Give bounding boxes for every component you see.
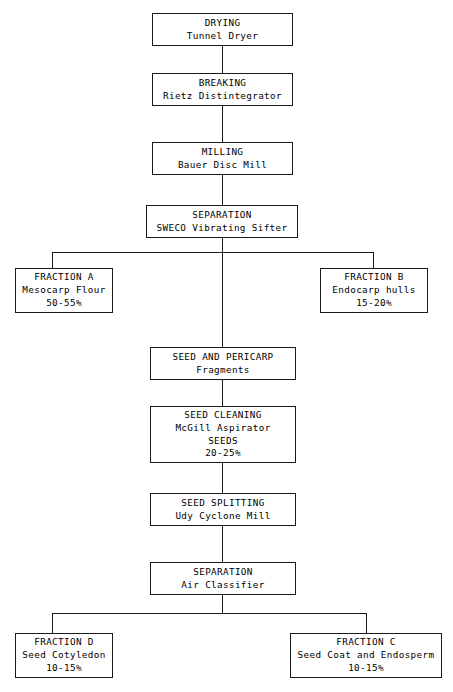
node-fraction-d: FRACTION DSeed Cotyledon10-15%	[15, 633, 113, 678]
node-separation-sifter: SEPARATIONSWECO Vibrating Sifter	[146, 205, 298, 238]
node-seed-cleaning-line-2: McGill Aspirator	[175, 422, 270, 435]
node-seed-cleaning-line-1: SEED CLEANING	[184, 409, 261, 422]
connector-split-center-to-pericarp	[222, 252, 223, 347]
node-fraction-c-line-3: 10-15%	[348, 662, 384, 675]
node-drying: DRYINGTunnel Dryer	[152, 13, 293, 46]
connector-splitting-to-separation	[222, 526, 223, 562]
connector-milling-to-separation	[222, 175, 223, 205]
node-separation-sifter-line-2: SWECO Vibrating Sifter	[157, 222, 288, 235]
connector-split-bar-top	[52, 252, 373, 253]
node-separation-air: SEPARATIONAir Classifier	[150, 562, 296, 595]
node-fraction-c-line-1: FRACTION C	[336, 636, 395, 649]
node-fraction-b-line-1: FRACTION B	[344, 271, 403, 284]
node-fraction-a-line-1: FRACTION A	[34, 271, 93, 284]
node-milling-line-2: Bauer Disc Mill	[178, 159, 267, 172]
node-seed-cleaning-line-4: 20-25%	[205, 447, 241, 460]
connector-drop-to-fraction-c	[366, 613, 367, 633]
node-separation-air-line-2: Air Classifier	[181, 579, 264, 592]
node-fraction-a-line-3: 50-55%	[46, 297, 82, 310]
connector-drying-to-breaking	[222, 46, 223, 73]
node-fraction-d-line-3: 10-15%	[46, 662, 82, 675]
connector-drop-to-fraction-d	[52, 613, 53, 633]
node-separation-sifter-line-1: SEPARATION	[192, 209, 251, 222]
connector-drop-to-fraction-a	[52, 252, 53, 268]
node-breaking-line-2: Rietz Distintegrator	[163, 90, 282, 103]
node-fraction-c-line-2: Seed Coat and Endosperm	[298, 649, 435, 662]
connector-breaking-to-milling	[222, 106, 223, 142]
connector-drop-to-fraction-b	[373, 252, 374, 268]
node-seed-splitting-line-2: Udy Cyclone Mill	[175, 510, 270, 523]
connector-separation-to-split-stem	[222, 238, 223, 252]
node-seed-splitting-line-1: SEED SPLITTING	[181, 497, 264, 510]
node-separation-air-line-1: SEPARATION	[193, 566, 252, 579]
node-fraction-b: FRACTION BEndocarp hulls15-20%	[320, 268, 428, 313]
node-fraction-b-line-2: Endocarp hulls	[332, 284, 415, 297]
connector-split-bar-bottom	[52, 613, 366, 614]
connector-cleaning-to-splitting	[222, 463, 223, 493]
node-fraction-d-line-1: FRACTION D	[34, 636, 93, 649]
node-breaking: BREAKINGRietz Distintegrator	[152, 73, 293, 106]
connector-pericarp-to-cleaning	[222, 380, 223, 406]
node-fraction-d-line-2: Seed Cotyledon	[22, 649, 105, 662]
node-fraction-c: FRACTION CSeed Coat and Endosperm10-15%	[290, 633, 442, 678]
node-seed-cleaning-line-3: SEEDS	[208, 435, 238, 448]
node-seed-and-pericarp-line-2: Fragments	[196, 364, 250, 377]
connector-separation-to-split-stem2	[222, 595, 223, 613]
node-seed-cleaning: SEED CLEANINGMcGill AspiratorSEEDS20-25%	[150, 406, 296, 463]
process-flow-diagram: DRYINGTunnel DryerBREAKINGRietz Distinte…	[0, 0, 453, 692]
node-breaking-line-1: BREAKING	[199, 77, 247, 90]
node-drying-line-1: DRYING	[205, 17, 241, 30]
node-milling: MILLINGBauer Disc Mill	[152, 142, 293, 175]
node-milling-line-1: MILLING	[202, 146, 244, 159]
node-fraction-b-line-3: 15-20%	[356, 297, 392, 310]
node-fraction-a: FRACTION AMesocarp Flour50-55%	[15, 268, 113, 313]
node-fraction-a-line-2: Mesocarp Flour	[22, 284, 105, 297]
node-seed-and-pericarp: SEED AND PERICARPFragments	[150, 347, 296, 380]
node-seed-and-pericarp-line-1: SEED AND PERICARP	[172, 351, 273, 364]
node-seed-splitting: SEED SPLITTINGUdy Cyclone Mill	[150, 493, 296, 526]
node-drying-line-2: Tunnel Dryer	[187, 30, 258, 43]
